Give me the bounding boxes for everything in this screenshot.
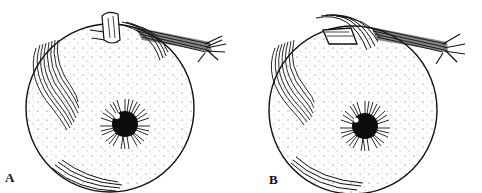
highlight: [353, 117, 358, 122]
panel-a: A: [0, 0, 241, 193]
muscle-insertion-stub: [102, 12, 120, 43]
eyeball-illustration-a: [0, 0, 241, 193]
panel-label-b: B: [269, 172, 278, 188]
panel-label-a: A: [5, 170, 14, 186]
iris: [340, 101, 390, 151]
panel-b: B: [241, 0, 482, 193]
pupil: [352, 113, 378, 139]
highlight: [114, 113, 120, 119]
iris: [100, 99, 150, 149]
eyeball-illustration-b: [241, 0, 482, 193]
